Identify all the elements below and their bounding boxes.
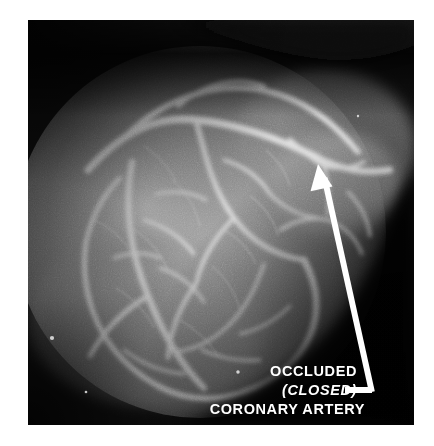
- caption-line-occluded: OCCLUDED: [270, 364, 357, 379]
- caption-line-closed: (CLOSED): [282, 383, 357, 398]
- caption-line-coronary-artery: CORONARY ARTERY: [210, 402, 365, 417]
- figure-root: OCCLUDED (CLOSED) CORONARY ARTERY: [0, 0, 434, 446]
